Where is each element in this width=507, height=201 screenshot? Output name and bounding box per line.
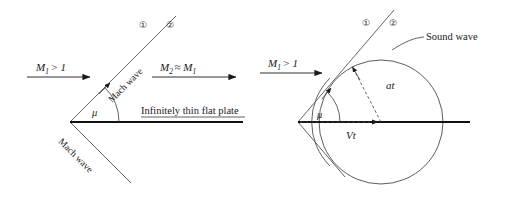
flat-plate-label: Infinitely thin flat plate <box>141 105 239 116</box>
sound-wave-label: Sound wave <box>426 31 478 42</box>
mach-angle-pointer-arrow <box>99 83 110 94</box>
region-two-label-right: ② <box>389 18 397 28</box>
flow-distance-label: Vt <box>346 129 357 141</box>
sound-radius-arrow <box>353 67 361 80</box>
region-one-label-left: ① <box>139 20 147 30</box>
mach-angle-pointer-arrow-right <box>322 88 331 99</box>
sound-wave-leader-line <box>392 37 424 50</box>
sound-radius-label: at <box>386 79 396 91</box>
mach-angle-arc-right <box>328 92 341 122</box>
upper-mach-wave-line-right <box>298 10 394 122</box>
inflow-mach-label-right: M1> 1 <box>267 57 298 72</box>
figure-container: M1> 1 M2≈ M1 ① ② Mach wave Mach wave μ I… <box>0 0 507 201</box>
lower-mach-wave-line-right <box>298 122 345 177</box>
upper-mach-wave-label: Mach wave <box>106 66 144 104</box>
inflow-mach-label-left: M1> 1 <box>35 61 66 76</box>
mach-angle-label-left: μ <box>91 107 97 118</box>
left-panel: M1> 1 M2≈ M1 ① ② Mach wave Mach wave μ I… <box>27 16 245 183</box>
region-one-label-right: ① <box>362 18 370 28</box>
region-two-label-left: ② <box>166 20 174 30</box>
lower-mach-wave-label: Mach wave <box>57 136 95 174</box>
mach-angle-label-right: μ <box>316 109 322 120</box>
right-panel: M1> 1 ① ② Sound wave at Vt μ <box>260 10 478 184</box>
mach-wave-diagram: M1> 1 M2≈ M1 ① ② Mach wave Mach wave μ I… <box>0 0 507 201</box>
outflow-mach-label-left: M2≈ M1 <box>159 61 196 76</box>
